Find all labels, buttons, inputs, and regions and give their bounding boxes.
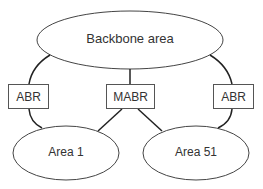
area-51-label: Area 51 <box>166 145 226 159</box>
backbone-area-label: Backbone area <box>85 31 175 46</box>
router-mabr: MABR <box>106 84 155 109</box>
link-abr-right-area51 <box>218 109 232 128</box>
link-abr-left-area1 <box>29 109 42 128</box>
link-backbone-abr-left <box>29 55 50 84</box>
area-1-label: Area 1 <box>36 145 96 159</box>
link-mabr-area1 <box>98 109 122 131</box>
router-abr-left: ABR <box>8 84 49 109</box>
link-mabr-area51 <box>138 109 162 131</box>
link-backbone-abr-right <box>210 55 232 84</box>
router-abr-right: ABR <box>213 84 254 109</box>
